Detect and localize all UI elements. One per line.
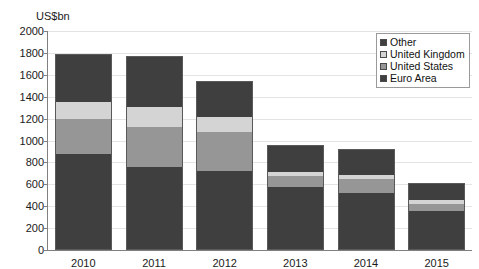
legend-item[interactable]: United States [380,61,465,72]
x-axis-tick-label: 2014 [338,257,395,269]
y-axis-tick-mark [44,141,48,142]
bar-segment[interactable] [197,82,252,117]
legend-item-label: United Kingdom [390,49,465,60]
bar-segment[interactable] [127,167,182,249]
y-axis-tick-label: 400 [4,200,44,212]
bar-segment[interactable] [409,184,464,200]
y-axis-tick-label: 1600 [4,69,44,81]
y-axis-tick-label: 1800 [4,47,44,59]
y-axis-tick-label: 1000 [4,135,44,147]
bar-group[interactable]: 2011 [126,31,183,250]
legend-swatch-icon [380,39,387,46]
y-axis-tick-mark [44,206,48,207]
y-axis-tick-label: 2000 [4,25,44,37]
y-axis-tick-label: 0 [4,244,44,256]
bar-segment[interactable] [127,57,182,107]
y-axis-tick-mark [44,162,48,163]
bar-segment[interactable] [197,171,252,249]
bar-segment[interactable] [127,127,182,167]
legend-swatch-icon [380,63,387,70]
bar-segment[interactable] [127,107,182,127]
y-axis-tick-label: 800 [4,156,44,168]
legend-item[interactable]: United Kingdom [380,49,465,60]
legend-item-label: Euro Area [390,73,437,84]
bar-segment[interactable] [56,102,111,119]
y-axis-tick-mark [44,250,48,251]
y-axis-tick-mark [44,75,48,76]
y-axis-tick-label: 1200 [4,113,44,125]
y-axis-tick-mark [44,119,48,120]
y-axis-tick-label: 200 [4,222,44,234]
stacked-bar[interactable] [126,56,183,250]
stacked-bar[interactable] [196,81,253,250]
bar-segment[interactable] [268,176,323,187]
y-axis-tick-mark [44,97,48,98]
bar-segment[interactable] [339,193,394,249]
x-axis-tick-label: 2010 [55,257,112,269]
bar-group[interactable]: 2013 [267,31,324,250]
stacked-bar[interactable] [408,183,465,250]
bar-segment[interactable] [339,150,394,175]
x-axis-tick-label: 2011 [126,257,183,269]
bar-segment[interactable] [409,211,464,249]
bar-segment[interactable] [56,119,111,154]
bar-segment[interactable] [268,187,323,249]
x-axis-tick-label: 2013 [267,257,324,269]
stacked-bar[interactable] [55,54,112,250]
bar-segment[interactable] [56,154,111,249]
legend-item-label: United States [390,61,453,72]
x-axis-tick-label: 2015 [408,257,465,269]
legend-item[interactable]: Euro Area [380,73,465,84]
y-axis-unit-label: US$bn [36,10,70,22]
bar-group[interactable]: 2012 [196,31,253,250]
x-axis-tick-label: 2012 [196,257,253,269]
y-axis-tick-mark [44,53,48,54]
bar-segment[interactable] [339,179,394,193]
legend-swatch-icon [380,51,387,58]
y-axis-tick-mark [44,228,48,229]
y-axis-tick-mark [44,184,48,185]
bar-group[interactable]: 2010 [55,31,112,250]
legend-swatch-icon [380,75,387,82]
stacked-bar[interactable] [267,145,324,250]
stacked-bar[interactable] [338,149,395,250]
legend-item[interactable]: Other [380,37,465,48]
y-axis-tick-label: 600 [4,178,44,190]
chart-legend: OtherUnited KingdomUnited StatesEuro Are… [376,33,470,88]
bar-segment[interactable] [197,117,252,132]
legend-item-label: Other [390,37,416,48]
y-axis-tick-label: 1400 [4,91,44,103]
bar-segment[interactable] [268,146,323,172]
bar-segment[interactable] [197,132,252,171]
bar-segment[interactable] [56,55,111,102]
y-axis-tick-mark [44,31,48,32]
